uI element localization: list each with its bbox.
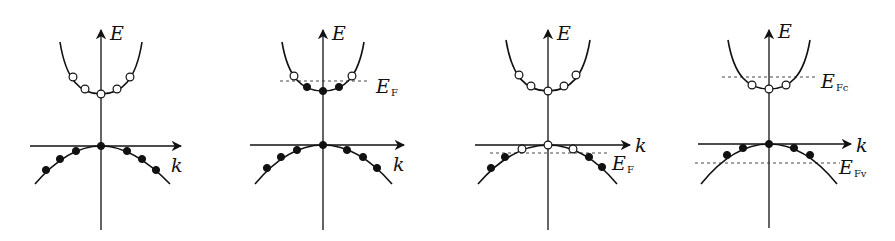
electron-dot bbox=[138, 155, 145, 162]
energy-axis-label: E bbox=[777, 20, 792, 42]
hole-dot bbox=[572, 71, 580, 79]
panel-intrinsic: Ek bbox=[30, 22, 183, 230]
hole-dot bbox=[765, 85, 773, 93]
electron-dot bbox=[335, 83, 342, 90]
hole-dot bbox=[544, 87, 552, 95]
fermi-level-label: EFv bbox=[838, 156, 867, 179]
electron-dot bbox=[263, 164, 270, 171]
panel-p-type: EkEF bbox=[475, 22, 647, 230]
hole-dot bbox=[782, 81, 790, 89]
electron-dot bbox=[765, 140, 772, 147]
electron-dot bbox=[303, 83, 310, 90]
k-axis-label: k bbox=[171, 154, 183, 176]
electron-dot bbox=[72, 147, 79, 154]
electron-dot bbox=[343, 146, 350, 153]
fermi-level-label: EF bbox=[611, 152, 634, 175]
hole-dot bbox=[69, 73, 77, 81]
electron-dot bbox=[152, 166, 159, 173]
electron-dot bbox=[42, 166, 49, 173]
energy-axis-label: E bbox=[556, 22, 571, 44]
hole-dot bbox=[81, 85, 89, 93]
panel-n-type: EkEF bbox=[250, 22, 405, 230]
band-diagram-figure: EkEkEFEkEFEkEFcEFv bbox=[0, 0, 895, 241]
electron-dot bbox=[487, 164, 494, 171]
electron-dot bbox=[373, 164, 380, 171]
panel-quasi-fermi: EkEFcEFv bbox=[695, 20, 868, 228]
panels-container: EkEkEFEkEFEkEFcEFv bbox=[30, 20, 868, 230]
electron-dot bbox=[319, 141, 326, 148]
fermi-level-label: EFc bbox=[820, 70, 849, 93]
electron-dot bbox=[359, 153, 366, 160]
electron-dot bbox=[293, 146, 300, 153]
hole-dot bbox=[544, 141, 552, 149]
electron-dot bbox=[277, 153, 284, 160]
energy-axis-label: E bbox=[331, 22, 346, 44]
hole-dot bbox=[97, 90, 105, 98]
k-axis-label: k bbox=[635, 134, 647, 156]
electron-dot bbox=[585, 153, 592, 160]
electron-dot bbox=[790, 144, 797, 151]
hole-dot bbox=[560, 82, 568, 90]
electron-dot bbox=[806, 151, 813, 158]
electron-dot bbox=[723, 151, 730, 158]
electron-dot bbox=[123, 147, 130, 154]
hole-dot bbox=[290, 72, 298, 80]
electron-dot bbox=[739, 144, 746, 151]
hole-dot bbox=[527, 82, 535, 90]
electron-dot bbox=[56, 155, 63, 162]
energy-axis-label: E bbox=[109, 22, 124, 44]
hole-dot bbox=[748, 81, 756, 89]
hole-dot bbox=[113, 85, 121, 93]
electron-dot bbox=[97, 142, 104, 149]
hole-dot bbox=[126, 73, 134, 81]
hole-dot bbox=[348, 72, 356, 80]
hole-dot bbox=[515, 71, 523, 79]
k-axis-label: k bbox=[393, 153, 405, 175]
k-axis-label: k bbox=[856, 134, 868, 156]
electron-dot bbox=[319, 87, 326, 94]
hole-dot bbox=[518, 145, 526, 153]
valence-band-curve bbox=[35, 146, 170, 184]
electron-dot bbox=[598, 163, 605, 170]
electron-dot bbox=[501, 153, 508, 160]
hole-dot bbox=[569, 145, 577, 153]
fermi-level-label: EF bbox=[375, 75, 398, 98]
